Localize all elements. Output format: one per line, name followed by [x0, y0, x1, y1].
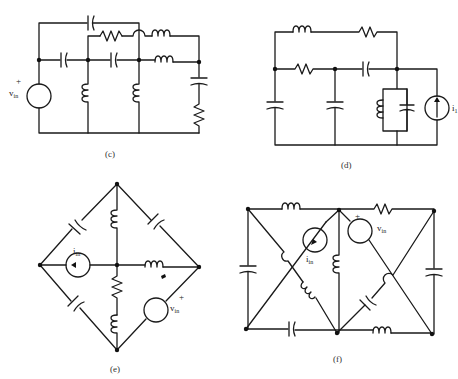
- caption-c: (c): [105, 149, 115, 159]
- inductor-icon: [111, 184, 117, 265]
- voltage-source-icon: [144, 298, 168, 322]
- capacitor-icon: [289, 322, 295, 336]
- inductor-icon: [377, 100, 383, 118]
- voltage-label: vin: [170, 303, 179, 314]
- capacitor-icon: [111, 53, 117, 67]
- inductor-icon: [155, 56, 173, 62]
- caption-e: (e): [110, 364, 120, 374]
- capacitor-icon: [400, 89, 414, 131]
- circuit-e: iin + vin (e): [38, 182, 201, 374]
- resistor-icon: [311, 27, 397, 69]
- circuit-figure: + vin (c) i1 (d): [0, 0, 458, 379]
- circuit-c: + vin (c): [9, 16, 207, 159]
- resistor-icon: [194, 84, 204, 133]
- inductor-icon: [301, 282, 315, 299]
- capacitor-icon: [88, 16, 94, 30]
- arrow-up-icon: [434, 97, 440, 102]
- polarity-label: +: [355, 211, 360, 221]
- inductor-icon: [133, 60, 139, 133]
- inductor-icon: [333, 210, 339, 333]
- arrow-left-icon: [71, 262, 76, 268]
- current-source-icon: [303, 228, 327, 252]
- source-label: vin: [9, 88, 18, 99]
- source-label: i1: [452, 103, 458, 114]
- inductor-icon: [293, 26, 311, 32]
- resistor-icon: [275, 64, 335, 74]
- capacitor-icon: [363, 62, 369, 76]
- resistor-icon: [300, 204, 434, 214]
- resistor-icon: [112, 265, 122, 315]
- inductor-icon: [82, 60, 88, 133]
- capacitor-icon: [61, 53, 67, 67]
- inductor-icon: [152, 30, 170, 36]
- caption-f: (f): [333, 354, 342, 364]
- voltage-label: vin: [377, 223, 386, 234]
- polarity-label: +: [16, 76, 21, 86]
- circuit-f: iin + vin (f): [240, 203, 442, 364]
- capacitor-icon: [68, 296, 84, 311]
- resistor-icon: [100, 31, 122, 41]
- capacitor-icon: [69, 220, 86, 234]
- voltage-source-icon: [27, 84, 51, 108]
- circuit-d: i1 (d): [267, 26, 458, 170]
- current-label: iin: [306, 254, 313, 265]
- polarity-label: +: [179, 292, 184, 302]
- inductor-icon: [145, 261, 163, 267]
- caption-d: (d): [341, 160, 352, 170]
- current-label: iin: [73, 246, 80, 257]
- inductor-icon: [373, 327, 391, 333]
- inductor-icon: [282, 203, 300, 209]
- voltage-source-icon: [348, 219, 372, 243]
